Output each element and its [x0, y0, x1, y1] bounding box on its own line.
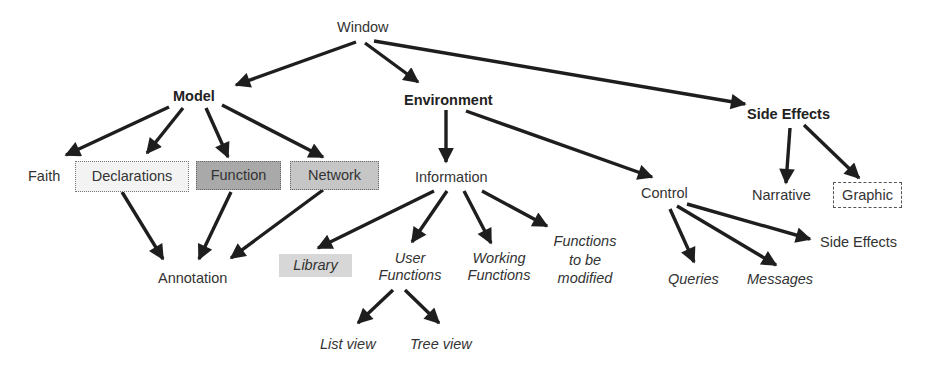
- edge-information-library: [318, 191, 434, 248]
- node-function-box: Function: [196, 161, 281, 190]
- node-tree-view: Tree view: [410, 336, 472, 353]
- node-functions-to-be-modified-line1: Functions: [545, 232, 625, 251]
- node-environment: Environment: [404, 92, 493, 109]
- node-declarations-label: Declarations: [92, 168, 173, 185]
- edge-control-queries: [670, 209, 694, 262]
- edge-window-environment: [365, 43, 418, 82]
- node-network-label: Network: [308, 167, 361, 184]
- node-functions-to-be-modified-line2: to be: [545, 251, 625, 270]
- node-information: Information: [415, 169, 488, 186]
- node-faith: Faith: [28, 168, 60, 185]
- node-narrative: Narrative: [752, 187, 811, 204]
- node-window: Window: [337, 19, 389, 36]
- node-graphic-box: Graphic: [833, 182, 902, 208]
- node-declarations-box: Declarations: [75, 161, 189, 192]
- node-side-effects: Side Effects: [747, 106, 830, 123]
- window-hierarchy-diagram: Window Model Environment Side Effects Fa…: [0, 0, 935, 369]
- edge-declarations-annotation: [122, 192, 163, 259]
- edge-information-working-functions: [464, 191, 491, 243]
- node-user-functions-line1: User: [370, 250, 450, 267]
- node-queries: Queries: [668, 271, 719, 288]
- node-working-functions: Working Functions: [459, 250, 539, 284]
- node-library-box: Library: [279, 254, 352, 277]
- edge-information-functions-to-be-modified: [482, 191, 547, 226]
- node-functions-to-be-modified-line3: modified: [545, 269, 625, 288]
- node-model: Model: [173, 88, 215, 105]
- node-user-functions-line2: Functions: [370, 267, 450, 284]
- edge-model-function: [206, 108, 228, 157]
- edge-function-annotation: [199, 192, 231, 259]
- node-network-box: Network: [290, 161, 379, 190]
- edge-model-network: [222, 105, 323, 157]
- node-messages: Messages: [747, 271, 813, 288]
- edge-side-effects-graphic: [804, 125, 859, 178]
- node-working-functions-line1: Working: [459, 250, 539, 267]
- edge-user-functions-tree-view: [405, 290, 439, 323]
- edge-window-model: [236, 42, 356, 85]
- edge-model-faith: [66, 107, 169, 155]
- node-working-functions-line2: Functions: [459, 267, 539, 284]
- node-function-label: Function: [211, 167, 267, 184]
- node-list-view: List view: [320, 336, 376, 353]
- node-control-side-effects: Side Effects: [820, 234, 897, 251]
- node-control: Control: [641, 185, 688, 202]
- node-annotation: Annotation: [158, 270, 227, 287]
- edge-user-functions-list-view: [358, 290, 393, 323]
- node-functions-to-be-modified: Functions to be modified: [545, 232, 625, 288]
- edge-environment-control: [466, 111, 652, 177]
- node-graphic-label: Graphic: [842, 187, 893, 204]
- node-library-label: Library: [293, 257, 337, 274]
- edge-network-annotation: [231, 190, 323, 258]
- node-user-functions: User Functions: [370, 250, 450, 284]
- edge-side-effects-narrative: [786, 128, 790, 183]
